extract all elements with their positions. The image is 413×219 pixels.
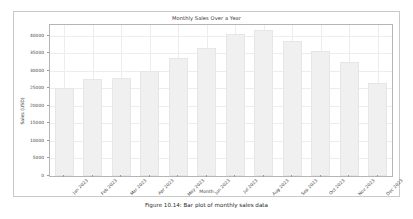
y-tick-mark <box>47 35 49 36</box>
gridline-horizontal <box>50 36 392 37</box>
y-tick-label: 10000 <box>30 137 44 142</box>
y-tick-label: 30000 <box>30 67 44 72</box>
x-tick-mark <box>377 175 378 177</box>
x-tick-mark <box>291 175 292 177</box>
y-tick-mark <box>47 157 49 158</box>
x-tick-label: May 2023 <box>186 178 205 197</box>
y-tick-mark <box>47 140 49 141</box>
y-tick-mark <box>47 105 49 106</box>
y-tick-mark <box>47 175 49 176</box>
y-axis-label: Sales (USD) <box>20 97 25 124</box>
y-tick-mark <box>47 70 49 71</box>
x-tick-mark <box>177 175 178 177</box>
y-tick-mark <box>47 52 49 53</box>
bar-may-2023 <box>169 58 188 176</box>
plot-area <box>50 25 392 176</box>
y-tick-label: 5000 <box>33 155 44 160</box>
chart-title: Monthly Sales Over a Year <box>14 15 399 21</box>
y-tick-mark <box>47 122 49 123</box>
y-tick-label: 20000 <box>30 102 44 107</box>
bar-aug-2023 <box>254 30 273 176</box>
gridline-horizontal <box>50 53 392 54</box>
x-axis-label: Month <box>14 189 399 194</box>
x-tick-mark <box>63 175 64 177</box>
figure-caption: Figure 10.14: Bar plot of monthly sales … <box>0 202 413 208</box>
bar-apr-2023 <box>140 71 159 176</box>
bar-nov-2023 <box>340 62 359 176</box>
bar-jan-2023 <box>55 88 74 176</box>
bar-oct-2023 <box>311 51 330 176</box>
y-tick-label: 25000 <box>30 85 44 90</box>
x-tick-mark <box>234 175 235 177</box>
bar-jul-2023 <box>226 34 245 176</box>
x-tick-mark <box>149 175 150 177</box>
figure-panel: Monthly Sales Over a Year Sales (USD) 05… <box>13 11 400 197</box>
plot-axes <box>49 24 393 177</box>
y-tick-label: 40000 <box>30 32 44 37</box>
bar-mar-2023 <box>112 78 131 176</box>
y-tick-mark <box>47 87 49 88</box>
x-tick-mark <box>348 175 349 177</box>
x-tick-mark <box>320 175 321 177</box>
bar-sep-2023 <box>283 41 302 176</box>
x-tick-mark <box>120 175 121 177</box>
bar-jun-2023 <box>197 48 216 176</box>
x-tick-mark <box>206 175 207 177</box>
x-tick-mark <box>263 175 264 177</box>
y-tick-label: 35000 <box>30 50 44 55</box>
x-tick-mark <box>92 175 93 177</box>
bar-feb-2023 <box>83 79 102 176</box>
y-tick-label: 15000 <box>30 120 44 125</box>
bar-dec-2023 <box>368 83 387 176</box>
y-tick-label: 0 <box>41 173 44 178</box>
